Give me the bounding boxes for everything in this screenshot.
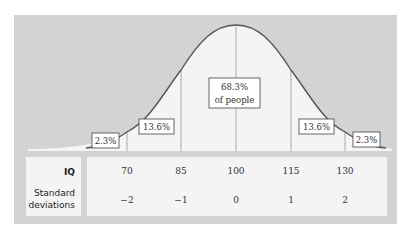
band-label-far-right: 2.3% [353, 132, 380, 147]
band-label-far-left: 2.3% [92, 133, 119, 148]
band-label-center: 68.3% of people [209, 78, 260, 108]
svg-text:115: 115 [282, 166, 299, 176]
row-header-iq: IQ [64, 167, 75, 177]
band-label-right: 13.6% [299, 119, 334, 134]
svg-text:68.3%: 68.3% [221, 82, 248, 92]
svg-text:100: 100 [227, 166, 244, 176]
svg-text:−2: −2 [120, 195, 133, 205]
svg-text:1: 1 [288, 195, 294, 205]
svg-text:2.3%: 2.3% [356, 135, 378, 145]
iq-distribution-chart: 2.3% 13.6% 68.3% of people 13.6% 2.3% IQ… [0, 0, 408, 239]
svg-text:2.3%: 2.3% [95, 136, 117, 146]
row-header-sd-line1: Standard [34, 188, 75, 198]
svg-text:130: 130 [336, 166, 353, 176]
band-label-left: 13.6% [139, 119, 174, 134]
svg-text:13.6%: 13.6% [303, 122, 330, 132]
svg-text:of people: of people [215, 95, 255, 105]
svg-text:70: 70 [121, 166, 133, 176]
svg-text:2: 2 [342, 195, 348, 205]
svg-text:85: 85 [175, 166, 187, 176]
svg-text:−1: −1 [174, 195, 187, 205]
svg-text:13.6%: 13.6% [143, 122, 170, 132]
svg-text:0: 0 [233, 195, 239, 205]
row-header-sd-line2: deviations [28, 200, 75, 210]
